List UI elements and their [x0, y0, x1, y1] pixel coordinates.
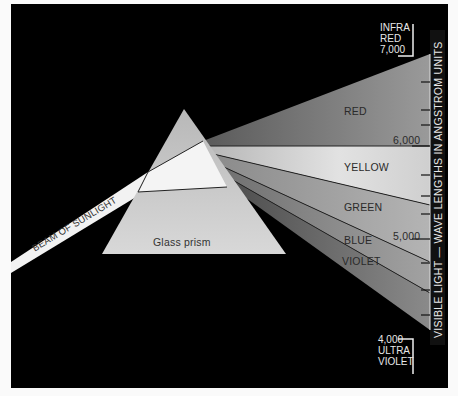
band-label-yellow: YELLOW	[344, 161, 389, 173]
infra-red-label: INFRA RED 7,000	[380, 22, 410, 55]
band-label-blue: BLUE	[344, 234, 372, 246]
band-label-red: RED	[344, 105, 367, 117]
tick-6000-label: 6,000	[393, 134, 420, 146]
band-label-violet: VIOLET	[342, 255, 381, 267]
band-label-green: GREEN	[344, 201, 382, 213]
tick-5000-label: 5,000	[393, 230, 420, 242]
ultra-violet-label: 4,000 ULTRA VIOLET	[378, 334, 414, 367]
prism-diagram: RED YELLOW GREEN BLUE VIOLET 6,000 5,000…	[0, 0, 458, 396]
axis-title: VISIBLE LIGHT — WAVE LENGTHS IN ANGSTROM…	[432, 41, 444, 338]
prism-label: Glass prism	[153, 236, 211, 248]
